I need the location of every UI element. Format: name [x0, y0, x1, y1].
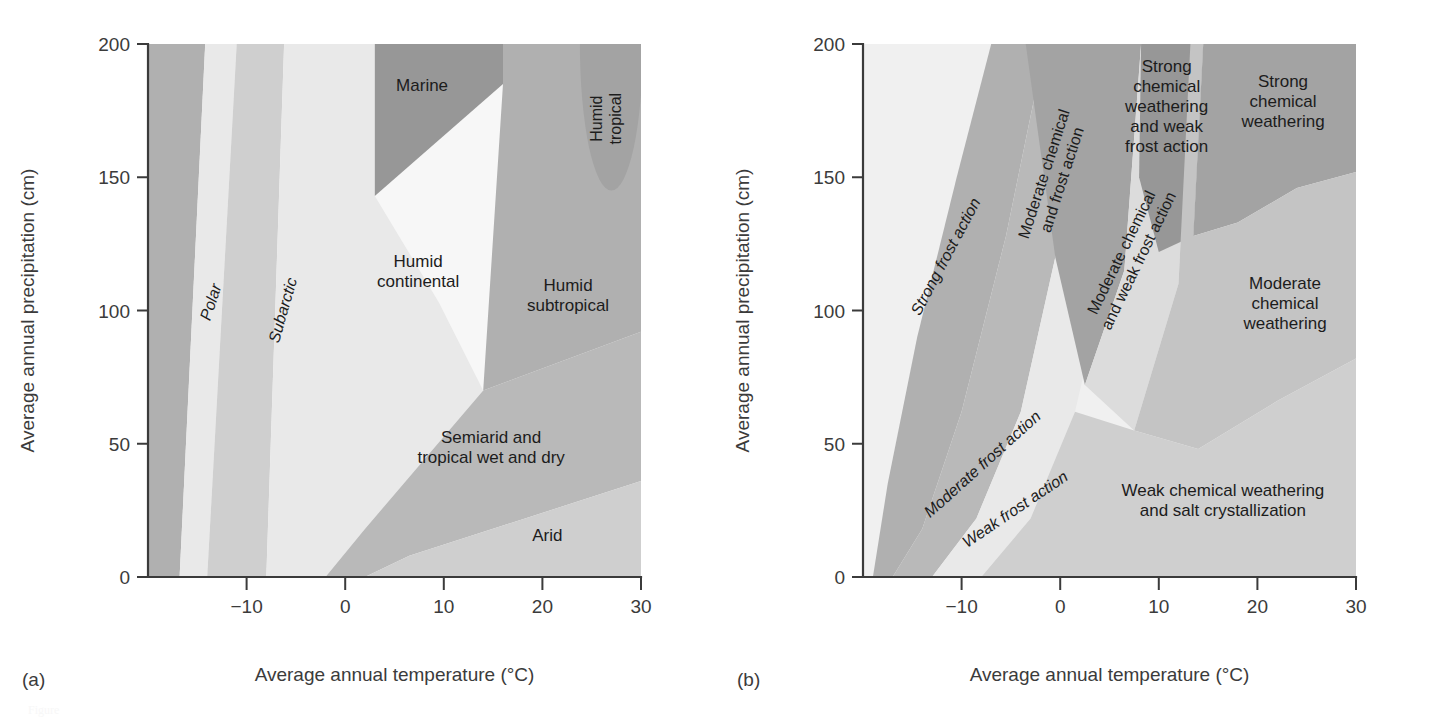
x-axis-title: Average annual temperature (°C) [255, 664, 535, 685]
x-tick-label-1: 0 [1055, 596, 1066, 617]
x-axis-title: Average annual temperature (°C) [970, 664, 1250, 685]
y-tick-label-150: 150 [98, 167, 130, 188]
y-tick-label-50: 50 [109, 434, 130, 455]
x-tick-label-0: −10 [945, 596, 977, 617]
y-tick-label-0: 0 [119, 567, 130, 588]
x-tick-label-4: 30 [1345, 596, 1366, 617]
x-tick-label-3: 20 [532, 596, 553, 617]
panel-letter: (b) [737, 669, 760, 690]
region-label-weak-chemical-weathering-and-salt-crystallization: Weak chemical weatheringand salt crystal… [1121, 482, 1324, 521]
x-tick-label-4: 30 [630, 596, 651, 617]
y-tick-label-200: 200 [98, 34, 130, 55]
y-tick-label-150: 150 [813, 167, 845, 188]
panel-a-climate-zones: PolarSubarcticHumidcontinentalMarineSemi… [0, 0, 715, 717]
region-label-marine: Marine [396, 76, 448, 95]
figure-caption-fragment: Figure [28, 703, 928, 717]
x-tick-label-0: −10 [230, 596, 262, 617]
panel-b-weathering-regimes: Strong frost actionModerate frost action… [715, 0, 1430, 717]
y-tick-label-0: 0 [834, 567, 845, 588]
region-label-humid-tropical: Humidtropical [588, 93, 624, 145]
x-tick-label-3: 20 [1247, 596, 1268, 617]
x-tick-label-1: 0 [340, 596, 351, 617]
y-tick-label-100: 100 [813, 301, 845, 322]
y-tick-label-100: 100 [98, 301, 130, 322]
region-label-moderate-chemical-weathering: Moderatechemicalweathering [1242, 275, 1326, 334]
panel-letter: (a) [22, 669, 45, 690]
x-tick-label-2: 10 [433, 596, 454, 617]
y-tick-label-50: 50 [824, 434, 845, 455]
figure-root: PolarSubarcticHumidcontinentalMarineSemi… [0, 0, 1430, 717]
y-tick-label-200: 200 [813, 34, 845, 55]
x-tick-label-2: 10 [1148, 596, 1169, 617]
y-axis-title: Average annual precipitation (cm) [732, 169, 753, 453]
region-label-arid: Arid [532, 527, 562, 546]
y-axis-title: Average annual precipitation (cm) [17, 169, 38, 453]
